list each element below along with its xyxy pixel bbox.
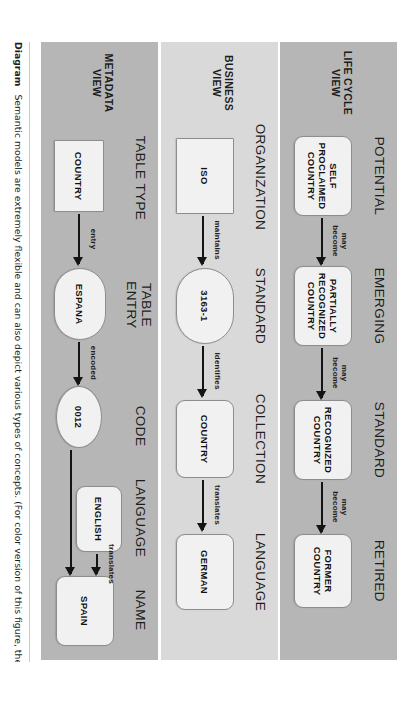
band-label-metadata-view: METADATA VIEW <box>92 46 116 120</box>
arrow-label-identifies: identifies <box>213 344 222 398</box>
figure-caption: DiagramSemantic models are extremely fle… <box>12 42 30 662</box>
figure-caption-label: Diagram <box>13 42 24 86</box>
figure-caption-text: Semantic models are extremely flexible a… <box>13 94 24 662</box>
arrow-label-entry: entry <box>89 214 98 264</box>
arrow-label-translates-metadata: translates <box>107 536 116 592</box>
rotated-page: LIFE CYCLE VIEW POTENTIAL EMERGING STAND… <box>0 0 402 704</box>
arrow-label-maintains: maintains <box>213 214 222 266</box>
stage-header-language-business: LANGUAGE <box>253 524 268 620</box>
stage-header-table-entry: TABLE ENTRY <box>124 260 154 350</box>
node-country-table-type[interactable]: COUNTRY <box>54 140 104 212</box>
arrow-label-encoded: encoded <box>89 336 98 390</box>
stage-header-code: CODE <box>133 386 148 466</box>
node-0012[interactable]: 0012 <box>56 386 102 448</box>
stage-header-potential: POTENTIAL <box>372 128 387 224</box>
stage-header-collection: COLLECTION <box>253 386 268 492</box>
node-german[interactable]: GERMAN <box>176 534 234 610</box>
node-former-country[interactable]: FORMER COUNTRY <box>294 534 352 608</box>
band-business-view: BUSINESS VIEW ORGANIZATION STANDARD COLL… <box>161 42 278 660</box>
arrow-self-to-partially <box>321 218 323 264</box>
band-life-cycle-view: LIFE CYCLE VIEW POTENTIAL EMERGING STAND… <box>280 42 397 660</box>
stage-header-language-metadata: LANGUAGE <box>133 466 148 570</box>
stage-header-retired: RETIRED <box>372 526 387 616</box>
stage-header-emerging: EMERGING <box>372 256 387 356</box>
node-3163-1[interactable]: 3163-1 <box>176 268 234 344</box>
arrow-label-may-become-1: may become <box>331 218 349 264</box>
node-recognized-country[interactable]: RECOGNIZED COUNTRY <box>294 400 352 480</box>
node-spain[interactable]: SPAIN <box>56 576 114 646</box>
node-iso[interactable]: ISO <box>176 138 234 214</box>
node-espana[interactable]: ESPANA <box>54 268 106 340</box>
semantic-model-diagram: LIFE CYCLE VIEW POTENTIAL EMERGING STAND… <box>39 42 397 660</box>
stage-header-standard-business: STANDARD <box>253 256 268 356</box>
arrow-label-may-become-2: may become <box>331 348 349 398</box>
stage-header-name: NAME <box>133 570 148 650</box>
stage-header-table-type: TABLE TYPE <box>133 126 148 230</box>
arrow-country-to-espana <box>78 214 80 264</box>
arrow-3163-1-to-country <box>202 346 204 396</box>
band-label-business-view: BUSINESS VIEW <box>212 46 236 120</box>
stage-header-organization: ORGANIZATION <box>253 122 268 232</box>
node-self-proclaimed-country[interactable]: SELF PROCLAIMED COUNTRY <box>294 136 352 216</box>
arrow-country-to-german <box>202 480 204 530</box>
band-label-life-cycle-view: LIFE CYCLE VIEW <box>331 46 355 120</box>
arrow-label-translates-business: translates <box>213 478 222 532</box>
arrow-label-may-become-3: may become <box>331 482 349 532</box>
arrow-iso-to-3163-1 <box>202 216 204 264</box>
node-country-collection[interactable]: COUNTRY <box>176 400 234 478</box>
arrow-english-to-spain <box>96 554 98 574</box>
arrow-espana-to-0012 <box>78 342 80 384</box>
arrow-recognized-to-former <box>321 482 323 532</box>
stage-header-standard: STANDARD <box>372 390 387 490</box>
node-partially-recognized-country[interactable]: PARTIALLY RECOGNIZED COUNTRY <box>294 266 352 346</box>
arrow-partially-to-recognized <box>321 348 323 398</box>
band-metadata-view: METADATA VIEW TABLE TYPE TABLE ENTRY COD… <box>41 42 158 660</box>
arrow-0012-to-spain <box>70 450 72 574</box>
